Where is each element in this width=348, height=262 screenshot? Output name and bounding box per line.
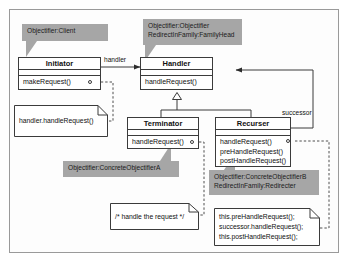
class-terminator[interactable]: Terminator handleRequest() [127, 117, 199, 149]
callout-concrete-b-line-1: Objectifier:ConcreteObjectifierB [214, 173, 314, 182]
note-terminator-text: /* handle the request */ [115, 203, 196, 230]
note-recurser-body: this.preHandleRequest(); successor.handl… [214, 208, 320, 246]
edge-label-successor: successor [282, 109, 312, 117]
callout-concrete-a: Objectifier:ConcreteObjectifierA [63, 161, 179, 177]
class-initiator-title: Initiator [19, 58, 100, 70]
callout-handler-roles-line-1: Objectifier:Objectifier [148, 22, 237, 31]
class-handler-title: Handler [141, 58, 212, 70]
diagram-canvas: Handler (association, filled arrow) --> [0, 0, 348, 262]
callout-client-line-1: Objectifier:Client [27, 27, 103, 36]
callout-concrete-b: Objectifier:ConcreteObjectifierB Redirec… [209, 170, 319, 195]
callout-concrete-b-line-2: RedirectInFamily:Redirecter [214, 182, 314, 191]
class-initiator[interactable]: Initiator makeRequest() [18, 57, 101, 90]
callout-handler-roles: Objectifier:Objectifier RedirectInFamily… [143, 19, 242, 45]
operation-postHandleRequest: postHandleRequest() [220, 156, 290, 166]
class-recurser-title: Recurser [216, 118, 290, 130]
note-recurser-text: this.preHandleRequest(); successor.handl… [219, 208, 317, 246]
class-terminator-operations: handleRequest() [128, 136, 198, 148]
note-recurser-line-1: this.preHandleRequest(); [219, 212, 317, 222]
operation-preHandleRequest: preHandleRequest() [220, 147, 290, 157]
class-terminator-title: Terminator [128, 118, 198, 130]
operation-handleRequest-terminator: handleRequest() [132, 137, 198, 147]
edge-label-handler: handler [104, 56, 126, 64]
lollipop-terminator-handleRequest [190, 140, 194, 144]
note-initiator-line-1: handler.handleRequest() [19, 116, 105, 126]
class-handler-operations: handleRequest() [141, 76, 212, 88]
operation-handleRequest-handler: handleRequest() [145, 77, 212, 87]
lollipop-initiator-makeRequest [88, 80, 92, 84]
callout-concrete-a-line-1: Objectifier:ConcreteObjectifierA [68, 164, 174, 173]
callout-client: Objectifier:Client [22, 24, 108, 41]
note-terminator-body: /* handle the request */ [110, 203, 199, 230]
lollipop-recurser-handleRequest [286, 139, 290, 143]
note-recurser-line-3: this.postHandleRequest(); [219, 232, 317, 242]
note-terminator-line-1: /* handle the request */ [115, 212, 196, 222]
note-initiator-text: handler.handleRequest() [19, 105, 105, 137]
note-recurser-line-2: successor.handleRequest(); [219, 222, 317, 232]
class-handler[interactable]: Handler handleRequest() [140, 57, 213, 90]
class-recurser-operations: handleRequest() preHandleRequest() postH… [216, 136, 290, 167]
note-initiator-body: handler.handleRequest() [14, 105, 108, 137]
class-recurser[interactable]: Recurser handleRequest() preHandleReques… [215, 117, 291, 167]
callout-handler-roles-line-2: RedirectInFamily:FamilyHead [148, 31, 237, 40]
operation-handleRequest-recurser: handleRequest() [220, 137, 290, 147]
